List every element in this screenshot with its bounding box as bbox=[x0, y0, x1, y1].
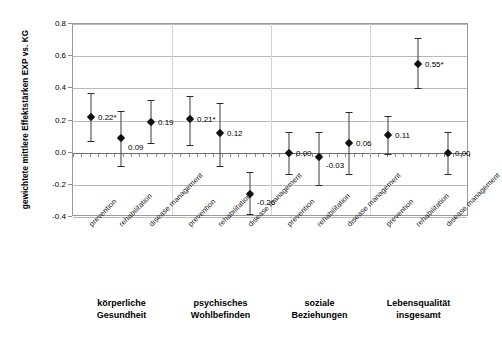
x-axis-tick-mark bbox=[197, 154, 198, 157]
x-axis-tick-mark bbox=[395, 154, 396, 157]
data-point-marker[interactable] bbox=[345, 139, 353, 147]
data-point-marker[interactable] bbox=[384, 131, 392, 139]
y-axis-tick-label: 0.8 bbox=[26, 19, 66, 28]
error-bar bbox=[418, 38, 419, 88]
y-axis-tick-label: 0.6 bbox=[26, 51, 66, 60]
x-axis-tick-mark bbox=[436, 154, 437, 157]
x-axis-tick-mark bbox=[337, 154, 338, 157]
gridline bbox=[73, 56, 467, 57]
gridline bbox=[73, 121, 467, 122]
x-axis-tick-mark bbox=[354, 154, 355, 157]
y-axis-tick-label: -0.2 bbox=[26, 179, 66, 188]
x-axis-tick-mark bbox=[428, 154, 429, 157]
data-point-label: 0.19 bbox=[158, 118, 174, 127]
data-point-label: 0.09 bbox=[128, 143, 144, 152]
data-point-label: -0.03 bbox=[326, 161, 344, 170]
x-axis-tick-mark bbox=[255, 154, 256, 157]
error-bar bbox=[349, 112, 350, 173]
y-axis-tick-mark bbox=[68, 55, 72, 56]
error-bar-cap bbox=[346, 174, 353, 175]
data-series: 0.22*0.090.190.21*0.12-0.260.00-0.030.06… bbox=[73, 24, 467, 215]
error-bar bbox=[289, 132, 290, 174]
group-separators bbox=[73, 24, 467, 215]
group-separator bbox=[370, 24, 371, 215]
error-bar bbox=[319, 132, 320, 185]
data-point-label: 0.11 bbox=[395, 130, 410, 139]
data-point-label: 0.00 bbox=[455, 148, 471, 157]
y-axis-tick-label: 0.2 bbox=[26, 115, 66, 124]
x-axis-tick-mark bbox=[271, 154, 272, 157]
x-axis-tick-mark bbox=[81, 154, 82, 157]
error-bar-cap bbox=[286, 174, 293, 175]
error-bar-cap bbox=[118, 111, 125, 112]
data-point-marker[interactable] bbox=[315, 153, 323, 161]
error-bar bbox=[121, 111, 122, 166]
x-axis-tick-mark bbox=[312, 154, 313, 157]
y-axis-tick-mark bbox=[68, 184, 72, 185]
x-axis-tick-mark bbox=[90, 154, 91, 157]
data-point-marker[interactable] bbox=[414, 60, 422, 68]
x-axis-tick-mark bbox=[279, 154, 280, 157]
y-axis-tick-mark bbox=[68, 87, 72, 88]
data-point-marker[interactable] bbox=[117, 134, 125, 142]
gridline bbox=[73, 24, 467, 25]
x-axis-tick-mark bbox=[172, 154, 173, 157]
y-axis-tick-mark bbox=[68, 23, 72, 24]
x-axis-tick-mark bbox=[189, 154, 190, 157]
data-point-marker[interactable] bbox=[444, 148, 452, 156]
data-point-label: 0.12 bbox=[227, 129, 243, 138]
error-bar-cap bbox=[415, 88, 422, 89]
x-axis-tick-mark bbox=[461, 154, 462, 157]
x-axis-tick-mark bbox=[73, 154, 74, 157]
data-point-marker[interactable] bbox=[147, 118, 155, 126]
error-bar-cap bbox=[316, 185, 323, 186]
gridline bbox=[73, 88, 467, 89]
x-axis-tick-mark bbox=[164, 154, 165, 157]
data-point-marker[interactable] bbox=[186, 115, 194, 123]
error-bar bbox=[151, 100, 152, 143]
data-point-label: 0.06 bbox=[356, 139, 372, 148]
data-point-marker[interactable] bbox=[285, 148, 293, 156]
y-axis-tick-mark bbox=[68, 120, 72, 121]
data-point-label: 0.00 bbox=[296, 148, 312, 157]
x-axis-tick-mark bbox=[222, 154, 223, 157]
x-axis-tick-mark bbox=[156, 154, 157, 157]
data-point-marker[interactable] bbox=[87, 113, 95, 121]
group-separator bbox=[172, 24, 173, 215]
x-axis-tick-mark bbox=[131, 154, 132, 157]
y-axis-tick-mark bbox=[68, 152, 72, 153]
error-bar-cap bbox=[217, 103, 224, 104]
data-point-marker[interactable] bbox=[216, 129, 224, 137]
x-axis-tick-mark bbox=[378, 154, 379, 157]
error-bar-cap bbox=[385, 154, 392, 155]
group-separator bbox=[271, 24, 272, 215]
error-bar-cap bbox=[316, 132, 323, 133]
x-axis-tick-mark bbox=[362, 154, 363, 157]
error-bar-cap bbox=[415, 38, 422, 39]
x-axis-tick-mark bbox=[98, 154, 99, 157]
data-point-label: 0.22* bbox=[98, 113, 117, 122]
x-axis-tick-mark bbox=[238, 154, 239, 157]
plot-area: 0.22*0.090.190.21*0.12-0.260.00-0.030.06… bbox=[72, 23, 468, 216]
gridline bbox=[73, 185, 467, 186]
y-axis-tick-mark bbox=[68, 216, 72, 217]
error-bar-cap bbox=[88, 141, 95, 142]
error-bar-cap bbox=[247, 172, 254, 173]
x-axis-tick-mark bbox=[444, 154, 445, 157]
error-bar-cap bbox=[148, 143, 155, 144]
y-axis-tick-label: 0.4 bbox=[26, 83, 66, 92]
x-axis-tick-mark bbox=[345, 154, 346, 157]
zero-axis-line bbox=[73, 153, 467, 154]
x-axis-tick-mark bbox=[469, 154, 470, 157]
error-bar-cap bbox=[445, 174, 452, 175]
y-axis-tick-label: -0.4 bbox=[26, 212, 66, 221]
error-bar bbox=[91, 93, 92, 141]
x-axis-tick-mark bbox=[106, 154, 107, 157]
x-axis-tick-mark bbox=[296, 154, 297, 157]
x-axis-tick-mark bbox=[180, 154, 181, 157]
x-axis-tick-mark bbox=[329, 154, 330, 157]
x-axis-tick-mark bbox=[205, 154, 206, 157]
y-axis-tick-label: 0.0 bbox=[26, 147, 66, 156]
x-axis-tick-mark bbox=[147, 154, 148, 157]
